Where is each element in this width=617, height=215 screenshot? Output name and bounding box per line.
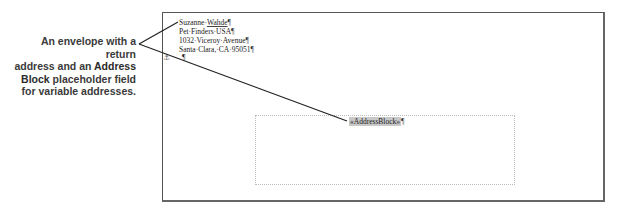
figure-caption: An envelope with a return address and an… [8,35,136,98]
return-address[interactable]: Suzanne·Wahde¶ Pet·Finders·USA¶ 1032·Vic… [179,18,254,54]
anchor-icon: ⚓ [163,53,170,62]
caption-emphasis: Block [21,73,50,85]
caption-line-4: for variable addresses. [8,85,136,98]
pilcrow-mark: ¶ [228,18,231,27]
return-address-line-3: 1032·Viceroy·Avenue¶ [179,36,254,45]
pilcrow-mark: ¶ [231,27,234,36]
empty-paragraph-mark: ¶ [182,53,185,62]
caption-line-1: An envelope with a return [8,35,136,60]
last-name: Wahde [207,18,228,27]
return-address-name: Suzanne·Wahde¶ [179,18,254,27]
first-name: Suzanne· [179,18,207,27]
return-address-line-2: Pet·Finders·USA¶ [179,27,254,36]
pilcrow-mark: ¶ [401,117,404,126]
company: Pet·Finders·USA [179,27,231,36]
caption-emphasis: Address [94,60,136,72]
caption-line-2: address and an Address [8,60,136,73]
caption-text: placeholder field [50,73,136,85]
city-state-zip: Santa·Clara,·CA·95051 [179,45,250,54]
caption-line-3: Block placeholder field [8,73,136,86]
return-address-line-4: Santa·Clara,·CA·95051¶ [179,45,254,54]
street: 1032·Viceroy·Avenue [179,36,245,45]
pilcrow-mark: ¶ [250,45,253,54]
address-block-field[interactable]: «AddressBlock»¶ [349,117,404,126]
address-block-placeholder[interactable]: «AddressBlock» [349,117,401,126]
pilcrow-mark: ¶ [245,36,248,45]
caption-text: address and an [14,60,94,72]
